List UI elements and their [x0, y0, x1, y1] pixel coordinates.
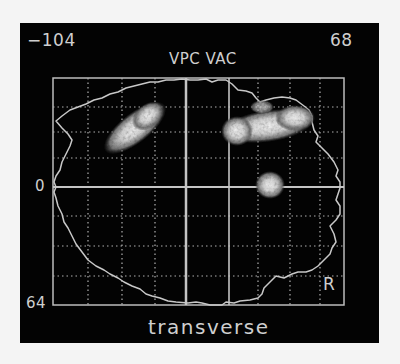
brain-scan-panel: −104 68 VPC VAC 0 64 R transverse: [20, 23, 379, 343]
activation-blobs: [96, 93, 316, 199]
view-label: transverse: [148, 317, 270, 337]
reference-title: VPC VAC: [169, 52, 237, 67]
y-label-bottom: 64: [26, 296, 46, 311]
y-label-center: 0: [35, 179, 45, 194]
side-marker-r: R: [323, 276, 335, 293]
corner-right-label: 68: [330, 32, 353, 49]
scan-canvas: [20, 23, 379, 343]
right-central-blob: [255, 171, 285, 199]
corner-left-label: −104: [27, 32, 76, 49]
